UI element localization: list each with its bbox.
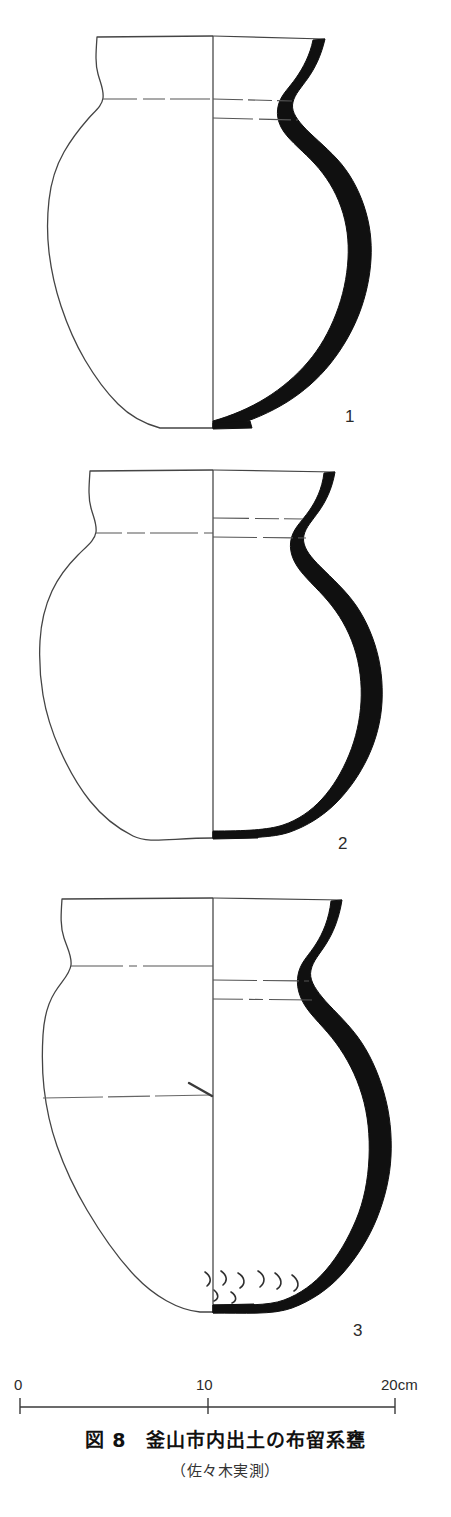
figure-caption-block: 図 8 釜山市内出土の布留系甕 （佐々木実測） — [0, 1428, 451, 1482]
vessel-2-rim-top-line — [213, 470, 335, 472]
vessel-3-body-line-arrow-icon — [189, 1083, 212, 1096]
vessel-3-left-outline — [42, 898, 213, 1312]
scale-label-0: 0 — [14, 1377, 22, 1392]
scale-label-10: 10 — [196, 1377, 213, 1392]
vessel-3-neck-line-right-lower — [213, 999, 312, 1000]
vessel-drawing-3 — [42, 898, 391, 1313]
vessel-3-rim-top-line — [213, 898, 342, 900]
vessel-number-label-3: 3 — [353, 1322, 362, 1339]
vessel-number-label-2: 2 — [338, 835, 347, 852]
scale-label-20cm: 20cm — [381, 1377, 418, 1392]
scale-bar — [20, 1398, 395, 1414]
vessel-2-base-section — [213, 831, 258, 839]
vessel-1-left-outline — [48, 36, 214, 428]
vessel-2-left-outline — [40, 470, 213, 840]
vessel-drawing-2 — [40, 470, 383, 840]
figure-caption-title: 図 8 釜山市内出土の布留系甕 — [0, 1428, 451, 1454]
vessel-3-section-wall — [213, 900, 391, 1313]
vessel-3-body-line — [43, 1095, 213, 1098]
vessel-3-base-section — [213, 1304, 256, 1313]
vessel-1-base-section — [213, 421, 252, 429]
figure-caption-attribution: （佐々木実測） — [0, 1460, 451, 1483]
vessel-number-label-1: 1 — [345, 408, 354, 425]
vessel-3-tool-marks — [205, 1271, 298, 1303]
vessel-2-section-wall — [213, 472, 382, 838]
vessel-3-neck-line-right-upper — [213, 980, 309, 981]
archaeological-figure-page: 1 2 3 0 10 20cm 図 8 釜山市内出土の布留系甕 （佐々木実測） — [0, 0, 451, 1517]
pottery-illustration-plate — [0, 0, 451, 1517]
vessel-1-section-wall — [213, 39, 371, 428]
vessel-1-rim-top-line — [213, 36, 325, 39]
vessel-drawing-1 — [48, 36, 373, 429]
vessel-2-neck-line-right-upper — [213, 518, 303, 519]
